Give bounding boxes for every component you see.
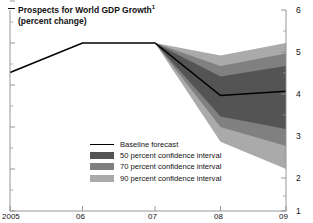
band-70-swatch-icon — [90, 163, 114, 170]
y-tick-label-4: 4 — [296, 89, 301, 99]
y-tick-label-2: 2 — [296, 173, 301, 183]
x-tick-label-07: 07 — [148, 212, 157, 221]
legend-item-ci70: 70 percent confidence interval — [90, 161, 221, 172]
y-tick-label-3: 3 — [296, 131, 301, 141]
band-90-swatch-icon — [90, 175, 114, 182]
y-tick-label-1: 1 — [296, 206, 301, 216]
y-tick-label-6: 6 — [296, 5, 301, 15]
legend-item-label: 50 percent confidence interval — [120, 150, 221, 161]
x-tick-label-08: 08 — [214, 212, 223, 221]
legend-item-label: 70 percent confidence interval — [120, 161, 221, 172]
x-tick-label-09: 09 — [279, 212, 288, 221]
x-ticks — [10, 206, 286, 211]
x-tick-label-06: 06 — [76, 212, 85, 221]
legend-item-baseline: Baseline forecast — [90, 139, 221, 150]
legend-item-label: Baseline forecast — [120, 139, 178, 150]
x-tick-label-2005: 2005 — [2, 212, 20, 221]
fan-chart: Prospects for World GDP Growth1 (percent… — [0, 0, 313, 223]
chart-canvas — [0, 0, 313, 223]
band-50-swatch-icon — [90, 152, 114, 159]
y-tick-label-5: 5 — [296, 47, 301, 57]
legend-item-label: 90 percent confidence interval — [120, 173, 221, 184]
legend-item-ci50: 50 percent confidence interval — [90, 150, 221, 161]
legend-item-ci90: 90 percent confidence interval — [90, 173, 221, 184]
chart-legend: Baseline forecast 50 percent confidence … — [90, 139, 221, 184]
baseline-line-swatch-icon — [90, 141, 114, 148]
